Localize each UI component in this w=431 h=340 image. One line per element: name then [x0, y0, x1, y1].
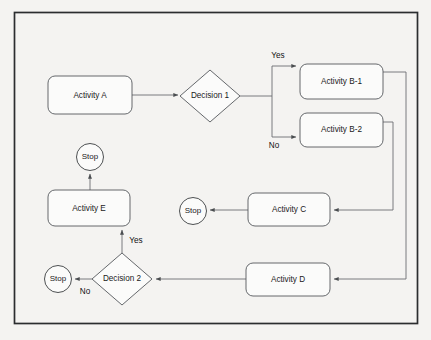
- activity-e-label: Activity E: [72, 204, 106, 213]
- stop-bottom-label: Stop: [50, 274, 67, 283]
- node-stop-top[interactable]: Stop: [77, 144, 104, 171]
- activity-a-label: Activity A: [73, 91, 107, 100]
- activity-b2-label: Activity B-2: [321, 125, 362, 134]
- node-activity-c[interactable]: Activity C: [248, 193, 330, 226]
- edge-label-no-decision-1: No: [269, 141, 280, 150]
- decision-2-label: Decision 2: [103, 274, 142, 283]
- node-stop-bottom[interactable]: Stop: [45, 266, 72, 293]
- activity-d-label: Activity D: [271, 275, 305, 284]
- activity-b1-label: Activity B-1: [321, 77, 362, 86]
- stop-middle-label: Stop: [185, 206, 202, 215]
- edge-label-no-decision-2: No: [80, 287, 91, 296]
- node-activity-b2[interactable]: Activity B-2: [300, 113, 383, 147]
- stop-top-label: Stop: [82, 152, 99, 161]
- activity-c-label: Activity C: [272, 205, 306, 214]
- node-activity-b1[interactable]: Activity B-1: [300, 64, 383, 99]
- flowchart-canvas: Activity A Decision 1 Activity B-1 Activ…: [0, 0, 431, 340]
- node-activity-d[interactable]: Activity D: [246, 263, 330, 296]
- edge-label-yes-decision-1: Yes: [271, 51, 284, 60]
- edge-label-yes-decision-2: Yes: [129, 236, 142, 245]
- node-activity-a[interactable]: Activity A: [48, 76, 132, 114]
- decision-1-label: Decision 1: [191, 91, 230, 100]
- node-stop-middle[interactable]: Stop: [180, 198, 207, 225]
- node-activity-e[interactable]: Activity E: [48, 190, 130, 226]
